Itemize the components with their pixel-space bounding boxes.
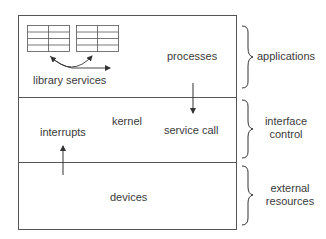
devices-label: devices bbox=[110, 191, 147, 204]
library-table-icon bbox=[77, 26, 119, 52]
control-label: control bbox=[269, 128, 302, 141]
brace-interface-icon bbox=[242, 100, 253, 158]
resources-label: resources bbox=[266, 195, 314, 208]
processes-label: processes bbox=[167, 50, 217, 63]
library-services-label: library services bbox=[33, 74, 106, 87]
interface-label: interface bbox=[265, 115, 307, 128]
brace-applications-icon bbox=[242, 26, 253, 88]
interrupts-label: interrupts bbox=[40, 126, 86, 139]
library-table-icon bbox=[28, 26, 70, 52]
applications-label: applications bbox=[257, 50, 315, 63]
library-link-arrow bbox=[51, 57, 72, 68]
kernel-label: kernel bbox=[112, 115, 142, 128]
external-label: external bbox=[270, 182, 309, 195]
brace-external-icon bbox=[242, 166, 253, 225]
service-call-label: service call bbox=[164, 124, 218, 137]
